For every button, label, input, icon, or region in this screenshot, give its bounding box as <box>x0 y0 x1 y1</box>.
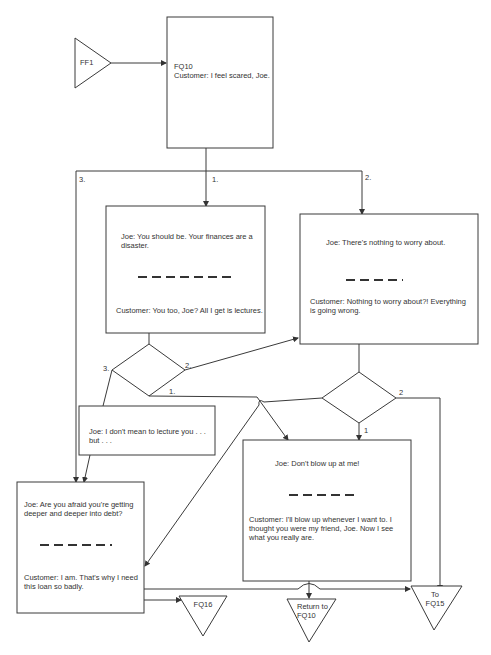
branch-label-d1-3: 3. <box>103 364 109 373</box>
fq10-id: FQ10 <box>174 62 193 71</box>
branch-label-top-3: 3. <box>79 175 85 184</box>
fq16-connector-label: FQ16 <box>186 600 220 609</box>
option1-customer: Customer: You too, Joe? All I get is lec… <box>116 306 264 315</box>
option3-joe: Joe: Are you afraid you're getting deepe… <box>24 500 140 518</box>
fq10-box <box>167 17 273 148</box>
option2-customer: Customer: Nothing to worry about?! Every… <box>310 297 472 315</box>
branch-label-top-1: 1. <box>212 175 218 184</box>
branch-label-d2-2: 2 <box>399 388 403 397</box>
return-connector-label: Return to FQ10 <box>297 602 333 620</box>
option2-joe: Joe: There's nothing to worry about. <box>326 238 466 247</box>
lecture-joe: Joe: I don't mean to lecture you . . . b… <box>89 427 207 445</box>
flowchart: FF1 FQ16 Return to FQ10 To FQ15 FQ10 Cus… <box>0 0 491 655</box>
start-connector-label: FF1 <box>80 58 93 67</box>
flowchart-lines <box>0 0 491 655</box>
to-fq15-connector-label: To FQ15 <box>420 590 450 608</box>
branch-label-top-2: 2. <box>365 173 371 182</box>
option3-customer: Customer: I am. That's why I need this l… <box>24 573 140 591</box>
branch-label-d1-1: 1. <box>169 387 175 396</box>
blowup-customer: Customer: I'll blow up whenever I want t… <box>249 515 407 542</box>
blowup-joe: Joe: Don't blow up at me! <box>275 459 405 468</box>
decision-diamond-2 <box>322 372 396 423</box>
branch-label-d1-2: 2. <box>185 361 191 370</box>
option1-joe: Joe: You should be. Your finances are a … <box>121 232 256 250</box>
fq10-text: Customer: I feel scared, Joe. <box>174 71 272 80</box>
branch-label-d2-1: 1 <box>364 426 368 435</box>
